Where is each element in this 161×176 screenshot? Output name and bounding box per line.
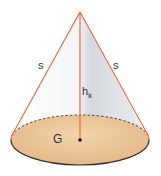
cone-diagram: s s hk G (0, 0, 161, 176)
label-slant-left: s (38, 59, 44, 71)
label-base: G (53, 132, 62, 146)
base-center-dot (78, 138, 82, 142)
label-slant-right: s (113, 59, 119, 71)
cone-figure: s s hk G (0, 0, 161, 176)
label-height-sub: k (88, 91, 92, 100)
